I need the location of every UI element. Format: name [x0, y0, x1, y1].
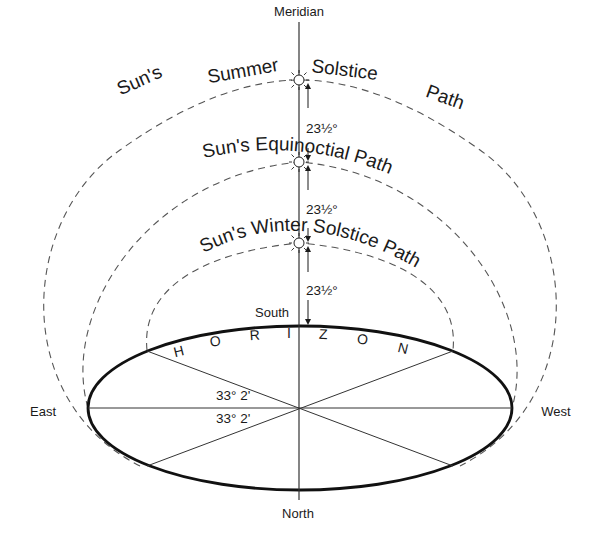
- sun-icon-summer: [289, 70, 309, 90]
- north-label: North: [282, 506, 314, 521]
- horizon-angle-lower: 33° 2': [216, 411, 250, 426]
- horizon-letter-n: N: [396, 339, 410, 357]
- angle-label-middle: 23½°: [306, 202, 338, 217]
- angle-label-upper: 23½°: [306, 121, 338, 136]
- horizon-letter-o1: O: [209, 332, 222, 349]
- south-label: South: [255, 305, 289, 320]
- equinoctial-arc: [83, 162, 517, 408]
- horizon-letter-o2: O: [356, 330, 369, 347]
- angle-label-lower: 23½°: [306, 283, 338, 298]
- horizon-letter-r: R: [249, 327, 260, 344]
- sun-icon-winter: [289, 233, 309, 253]
- summer-label-path: Path: [423, 80, 467, 113]
- summer-label-suns: Sun's: [114, 61, 165, 99]
- east-label: East: [30, 404, 56, 419]
- horizon-letter-i: I: [287, 325, 291, 341]
- horizon-letter-z: Z: [319, 326, 329, 342]
- west-label: West: [541, 404, 571, 419]
- horizon-letter-h: H: [172, 342, 186, 360]
- summer-label-solstice: Solstice: [310, 55, 379, 84]
- meridian-label: Meridian: [274, 4, 324, 19]
- equinoctial-label: Sun's Equinoctial Path: [200, 133, 396, 178]
- horizon-angle-upper: 33° 2': [216, 388, 250, 403]
- winter-label: Sun's Winter Solstice Path: [196, 214, 424, 272]
- sun-path-diagram: Meridian South North East West Sun's Sum…: [0, 0, 600, 548]
